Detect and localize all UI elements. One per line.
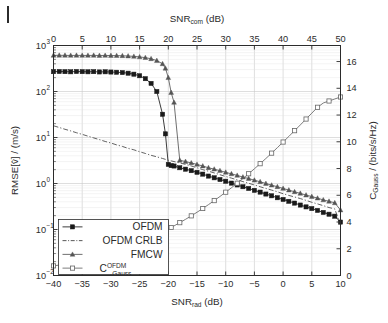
svg-text:0: 0: [47, 176, 51, 183]
svg-text:14: 14: [347, 83, 357, 93]
svg-text:10: 10: [347, 137, 357, 147]
bottom-axis-title: SNRrad (dB): [171, 296, 222, 308]
svg-text:6: 6: [347, 190, 352, 200]
legend-label-fmcw: FMCW: [131, 249, 163, 260]
svg-text:10: 10: [335, 279, 345, 289]
top-axis-title: SNRcom (dB): [170, 13, 224, 25]
right-axis-title: CGauss / (bits/s/Hz): [367, 121, 379, 199]
svg-text:−1: −1: [47, 222, 55, 229]
svg-text:10: 10: [36, 133, 46, 143]
legend-label-ofdm: OFDM: [133, 221, 163, 232]
svg-text:3: 3: [47, 38, 51, 45]
svg-text:50: 50: [335, 34, 345, 44]
legend-label-ofdm-crlb: OFDM CRLB: [103, 235, 163, 246]
svg-text:45: 45: [307, 34, 317, 44]
svg-text:−15: −15: [189, 279, 205, 289]
svg-text:10: 10: [36, 179, 46, 189]
svg-text:−30: −30: [103, 279, 119, 289]
svg-text:10: 10: [36, 225, 46, 235]
svg-text:20: 20: [163, 34, 173, 44]
svg-text:10: 10: [106, 34, 116, 44]
svg-text:5: 5: [80, 34, 85, 44]
svg-text:2: 2: [347, 244, 352, 254]
svg-text:25: 25: [192, 34, 202, 44]
svg-text:40: 40: [278, 34, 288, 44]
svg-text:30: 30: [221, 34, 231, 44]
svg-text:8: 8: [347, 164, 352, 174]
svg-text:0: 0: [347, 271, 352, 281]
svg-text:0: 0: [281, 279, 286, 289]
page-edge-mark: [7, 6, 9, 23]
svg-text:12: 12: [347, 110, 357, 120]
svg-text:35: 35: [249, 34, 259, 44]
left-axis-title: RMSE[v̂] / (m/s): [9, 126, 20, 195]
svg-text:10: 10: [36, 87, 46, 97]
svg-text:16: 16: [347, 57, 357, 67]
svg-text:−40: −40: [46, 279, 62, 289]
svg-text:4: 4: [347, 217, 352, 227]
svg-text:−20: −20: [161, 279, 177, 289]
svg-text:10: 10: [36, 271, 46, 281]
figure-container: −40−35−30−25−20−15−10−505100510152025303…: [0, 0, 388, 323]
svg-text:10: 10: [36, 41, 46, 51]
svg-text:1: 1: [47, 130, 51, 137]
legend[interactable]: OFDMOFDM CRLBFMCWCOFDMGauss: [59, 220, 169, 277]
svg-text:−2: −2: [47, 268, 55, 275]
svg-text:−25: −25: [132, 279, 148, 289]
svg-text:−5: −5: [249, 279, 259, 289]
svg-text:15: 15: [134, 34, 144, 44]
svg-text:2: 2: [47, 84, 51, 91]
svg-text:−10: −10: [218, 279, 234, 289]
svg-text:0: 0: [51, 34, 56, 44]
rmse-capacity-chart: −40−35−30−25−20−15−10−505100510152025303…: [0, 0, 388, 323]
svg-text:−35: −35: [74, 279, 90, 289]
svg-text:5: 5: [309, 279, 314, 289]
